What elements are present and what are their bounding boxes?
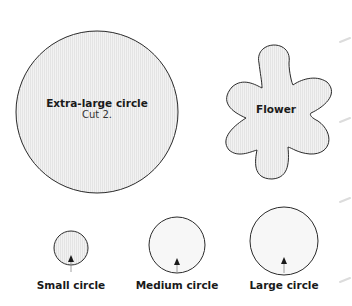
extra-large-circle-label: Extra-large circle Cut 2.	[17, 97, 177, 120]
large-circle-label: Large circle	[234, 279, 334, 291]
extra-large-circle-title: Extra-large circle	[17, 97, 177, 109]
flower-label: Flower	[236, 103, 316, 115]
extra-large-circle-note: Cut 2.	[17, 109, 177, 120]
templates-canvas	[0, 0, 352, 306]
medium-circle-label: Medium circle	[122, 279, 232, 291]
small-circle-label: Small circle	[21, 279, 121, 291]
edge-marks	[340, 38, 350, 282]
